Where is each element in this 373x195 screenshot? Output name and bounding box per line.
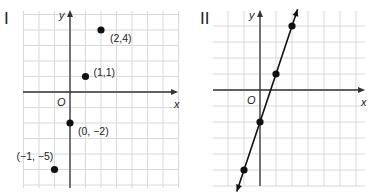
data-point [288, 22, 295, 29]
data-point [240, 166, 247, 173]
line-arrow-down-icon [236, 184, 242, 192]
plotted-line [237, 9, 298, 191]
graph-panel-2: II xyO [186, 0, 373, 195]
origin-label: O [57, 96, 66, 108]
point-label: (0, −2) [78, 125, 109, 137]
y-axis-label: y [248, 9, 256, 21]
x-axis-label: x [360, 96, 367, 108]
point-label: (1,1) [94, 66, 116, 78]
x-axis-arrow-icon [358, 87, 365, 93]
y-axis-arrow-icon [257, 10, 263, 17]
x-axis-label: x [173, 98, 180, 110]
data-point [272, 70, 279, 77]
y-axis-arrow-icon [67, 10, 73, 17]
data-point [256, 118, 263, 125]
graph-panel-1: I xyO(2,4)(1,1)(0, −2)(−1, −5) [0, 0, 186, 195]
point-label: (−1, −5) [17, 150, 54, 162]
coordinate-plane-2: xyO [186, 0, 373, 195]
data-point [97, 26, 104, 33]
line-arrow-up-icon [293, 9, 299, 17]
origin-label: O [247, 94, 256, 106]
data-point [82, 73, 89, 80]
data-point [66, 119, 73, 126]
x-axis-arrow-icon [171, 89, 178, 95]
coordinate-plane-1: xyO(2,4)(1,1)(0, −2)(−1, −5) [0, 0, 186, 195]
point-label: (2,4) [110, 32, 132, 44]
data-point [51, 166, 58, 173]
